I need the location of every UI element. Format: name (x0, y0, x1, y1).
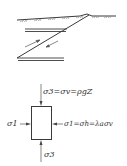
stress-element-box (32, 107, 52, 140)
top-arrow-head (40, 101, 43, 106)
stress-element-diagram (0, 0, 127, 166)
top-stress-label: σ3=σv=ρgZ (43, 88, 92, 96)
right-stress-label: σ1=σh=λaσv (64, 120, 113, 127)
bottom-arrow-head (40, 140, 43, 145)
right-arrow-head (52, 123, 57, 126)
left-arrow-head (26, 123, 31, 126)
bottom-stress-label: σ3 (44, 151, 55, 159)
left-stress-label: σ1 (7, 120, 18, 128)
